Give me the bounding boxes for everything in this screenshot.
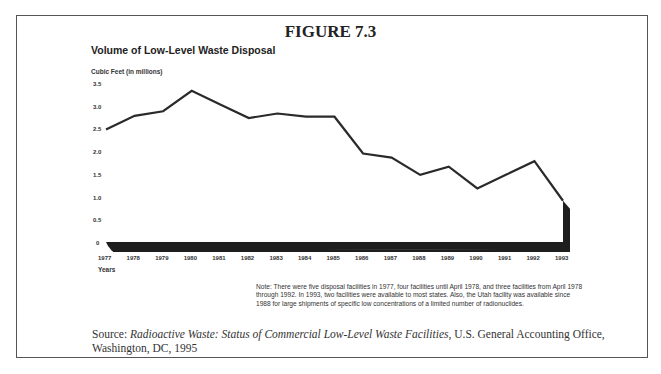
x-tick-label: 1992 <box>526 255 540 261</box>
y-tick-label: 3.0 <box>93 104 102 110</box>
x-tick-label: 1984 <box>298 255 312 261</box>
series-line <box>106 91 563 201</box>
y-ticks: 00.51.01.52.02.53.03.5 <box>93 81 102 246</box>
x-tick-label: 1978 <box>127 255 141 261</box>
y-tick-label: 0.5 <box>93 217 102 223</box>
chart-note: Note: There were five disposal facilitie… <box>256 283 586 308</box>
x-tick-label: 1983 <box>269 255 283 261</box>
source-title: Radioactive Waste: Status of Commercial … <box>130 328 448 340</box>
x-tick-label: 1977 <box>98 255 112 261</box>
x-tick-label: 1991 <box>498 255 512 261</box>
y-tick-label: 1.5 <box>93 172 102 178</box>
x-tick-label: 1979 <box>155 255 169 261</box>
x-tick-label: 1989 <box>441 255 455 261</box>
x-tick-label: 1982 <box>241 255 255 261</box>
line-chart: 00.51.01.52.02.53.03.5 19771978197919801… <box>0 0 661 374</box>
baseline-shadow <box>106 201 570 252</box>
y-tick-label: 2.5 <box>93 126 102 132</box>
y-tick-label: 0 <box>96 240 100 246</box>
y-tick-label: 1.0 <box>93 195 102 201</box>
series-polyline <box>106 91 563 201</box>
source-prefix: Source: <box>92 328 130 340</box>
x-tick-label: 1986 <box>355 255 369 261</box>
y-tick-label: 3.5 <box>93 81 102 87</box>
x-tick-label: 1988 <box>412 255 426 261</box>
x-tick-label: 1993 <box>555 255 569 261</box>
x-tick-label: 1981 <box>212 255 226 261</box>
x-tick-label: 1980 <box>184 255 198 261</box>
x-tick-label: 1987 <box>384 255 398 261</box>
y-tick-label: 2.0 <box>93 149 102 155</box>
x-ticks: 1977197819791980198119821983198419851986… <box>98 255 569 261</box>
x-tick-label: 1985 <box>327 255 341 261</box>
x-tick-label: 1990 <box>469 255 483 261</box>
source-citation: Source: Radioactive Waste: Status of Com… <box>92 327 652 355</box>
